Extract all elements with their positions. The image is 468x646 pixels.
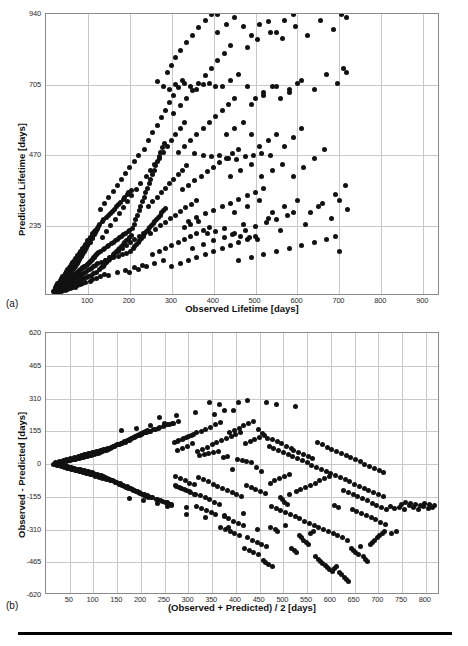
scatter-point [194,215,199,220]
scatter-point [52,288,57,293]
scatter-point [80,281,85,286]
scatter-point [275,439,280,444]
scatter-point [196,219,201,224]
scatter-point [132,237,137,242]
scatter-point [245,204,250,209]
scatter-point [56,286,61,291]
scatter-point [205,231,210,236]
scatter-point [159,190,164,195]
scatter-point [332,566,337,571]
scatter-point [220,108,225,113]
scatter-point [189,202,194,207]
scatter-point [129,436,134,441]
gridline-horizontal [46,155,438,156]
scatter-point [155,501,160,506]
scatter-point [66,278,71,283]
scatter-point [264,400,269,405]
scatter-point [312,240,317,245]
scatter-point [308,210,313,215]
gridline-vertical [378,333,379,593]
scatter-point [220,486,225,491]
scatter-point [222,513,227,518]
scatter-point [268,481,273,486]
scatter-point [64,282,69,287]
scatter-point [146,138,151,143]
scatter-point [136,267,141,272]
scatter-point [142,195,147,200]
scatter-point [109,478,114,483]
scatter-point [95,251,100,256]
scatter-point [60,459,65,464]
scatter-point [123,231,128,236]
scatter-point [63,276,68,281]
scatter-point [259,174,264,179]
scatter-point [78,267,83,272]
scatter-point [274,249,279,254]
scatter-point [90,231,95,236]
scatter-point [144,264,149,269]
scatter-point [369,515,374,520]
scatter-point [347,479,352,484]
scatter-point [178,103,183,108]
scatter-point [430,505,435,510]
scatter-point [186,258,191,263]
scatter-point [203,515,208,520]
scatter-point [77,257,82,262]
scatter-point [226,516,231,521]
scatter-point [282,144,287,149]
gridline-horizontal [46,530,438,531]
scatter-point [160,145,165,150]
scatter-point [333,234,338,239]
scatter-point [120,246,125,251]
scatter-point [80,453,85,458]
scatter-point [109,445,114,450]
scatter-point [80,252,85,257]
y-tick-label: 155 [19,426,41,435]
scatter-point [109,445,114,450]
x-tick-label: 50 [65,595,73,604]
scatter-point [65,287,70,292]
scatter-point [152,162,157,167]
scatter-point [199,506,204,511]
scatter-point [67,273,72,278]
scatter-point [92,232,97,237]
scatter-point [345,538,350,543]
gridline-vertical [165,333,166,593]
scatter-point [110,478,115,483]
scatter-point [215,13,220,17]
scatter-point [344,577,349,582]
y-tick-label: 235 [19,220,41,229]
scatter-point [201,126,206,131]
scatter-point [278,96,283,101]
scatter-point [64,457,69,462]
scatter-point [105,446,110,451]
scatter-point [338,475,343,480]
scatter-point [372,538,377,543]
scatter-point [96,250,101,255]
scatter-point [90,236,95,241]
scatter-point [72,258,77,263]
scatter-point [230,490,235,495]
scatter-point [346,579,351,584]
scatter-point [132,265,137,270]
scatter-point [293,514,298,519]
x-tick-label: 700 [371,595,383,604]
scatter-point [89,266,94,271]
x-tick-label: 400 [207,296,219,305]
scatter-point [167,422,172,427]
scatter-point [88,470,93,475]
scatter-point [380,531,385,536]
scatter-point [291,135,296,140]
scatter-point [289,446,294,451]
scatter-point [200,447,205,452]
scatter-point [176,419,181,424]
gridline-vertical [423,14,424,294]
scatter-point [238,234,243,239]
scatter-point [186,183,191,188]
scatter-point [320,201,325,206]
scatter-point [195,449,200,454]
scatter-point [243,441,248,446]
scatter-point [226,156,231,161]
scatter-point [194,87,199,92]
scatter-point [163,246,168,251]
